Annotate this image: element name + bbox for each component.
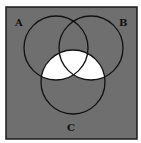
label-b: B: [119, 17, 127, 28]
label-c: C: [67, 122, 75, 133]
label-a: A: [14, 17, 23, 28]
venn-diagram: A B C: [0, 0, 141, 143]
